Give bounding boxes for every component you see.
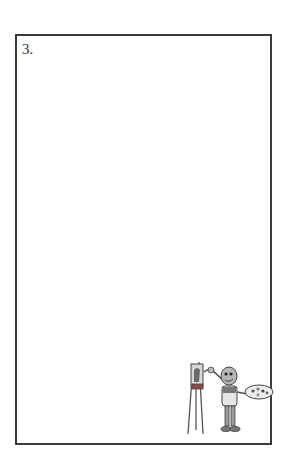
robot-painter-at-easel-icon xyxy=(185,356,277,436)
item-number: 3. xyxy=(22,42,33,57)
drawing-frame: 3. xyxy=(15,34,272,445)
